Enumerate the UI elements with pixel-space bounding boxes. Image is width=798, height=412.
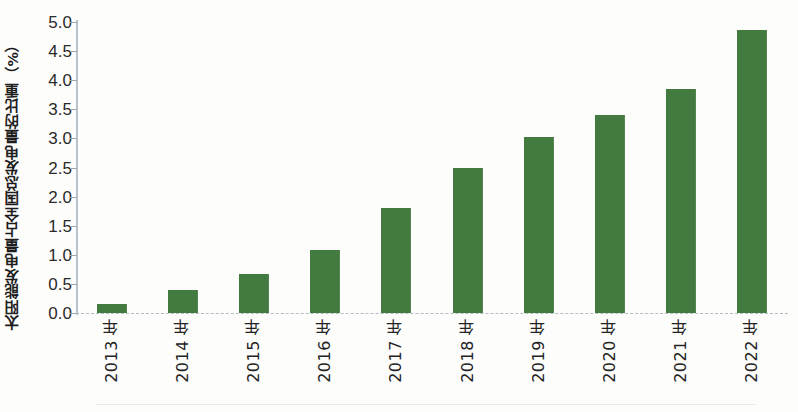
plot-area	[76, 22, 788, 313]
x-axis-tick-label-text: 2016 年	[317, 318, 333, 383]
y-axis-tick-label: 1.0	[30, 246, 72, 263]
x-axis-tick-label-text: 2022 年	[744, 318, 760, 383]
x-axis-tick-label-text: 2021 年	[673, 318, 689, 383]
y-axis-tick-label: 2.5	[30, 159, 72, 176]
bar	[737, 30, 767, 313]
x-axis-tick-label-text: 2018 年	[460, 318, 476, 383]
x-axis-tick-label: 2022 年	[717, 318, 788, 404]
page-bottom-rule	[96, 404, 756, 405]
bar	[97, 304, 127, 313]
bar	[453, 168, 483, 314]
x-axis-tick-labels: 2013 年2014 年2015 年2016 年2017 年2018 年2019…	[76, 318, 788, 408]
x-axis-tick-label: 2018 年	[432, 318, 503, 404]
bar	[239, 274, 269, 313]
y-axis-title: 太阳能发电量占全国总发电量的比重（%）	[0, 0, 26, 330]
x-axis-tick-label-text: 2017 年	[388, 318, 404, 383]
y-axis-tick-label: 0.0	[30, 305, 72, 322]
x-axis-tick-label-text: 2019 年	[531, 318, 547, 383]
y-axis-tick-label: 4.0	[30, 72, 72, 89]
bar	[595, 115, 625, 313]
x-axis-tick-label: 2017 年	[361, 318, 432, 404]
y-axis-tick-label: 0.5	[30, 275, 72, 292]
y-axis-tick-label: 2.0	[30, 188, 72, 205]
y-axis-tick-label: 3.0	[30, 130, 72, 147]
bar	[168, 290, 198, 313]
y-axis-tick-label: 1.5	[30, 217, 72, 234]
x-axis-tick-label: 2016 年	[290, 318, 361, 404]
x-axis-tick-label: 2020 年	[574, 318, 645, 404]
x-axis-tick-label-text: 2020 年	[602, 318, 618, 383]
x-axis-tick-label: 2015 年	[218, 318, 289, 404]
y-axis-tick-label: 4.5	[30, 43, 72, 60]
chart-figure: 太阳能发电量占全国总发电量的比重（%） 0.00.51.01.52.02.53.…	[0, 0, 798, 412]
x-axis-baseline	[76, 313, 788, 315]
x-axis-tick-label-text: 2015 年	[246, 318, 262, 383]
y-axis-title-text: 太阳能发电量占全国总发电量的比重（%）	[6, 36, 21, 330]
x-axis-tick-label-text: 2013 年	[104, 318, 120, 383]
x-axis-tick-label: 2021 年	[646, 318, 717, 404]
y-axis-tick-labels: 0.00.51.01.52.02.53.03.54.04.55.0	[30, 0, 72, 340]
bar	[524, 137, 554, 313]
x-axis-tick-label: 2013 年	[76, 318, 147, 404]
x-axis-tick-label-text: 2014 年	[175, 318, 191, 383]
x-axis-tick-label: 2014 年	[147, 318, 218, 404]
bar	[381, 208, 411, 313]
y-axis-tick-label: 3.5	[30, 101, 72, 118]
bar	[666, 89, 696, 313]
bar	[310, 250, 340, 313]
x-axis-tick-label: 2019 年	[503, 318, 574, 404]
y-axis-tick-label: 5.0	[30, 14, 72, 31]
